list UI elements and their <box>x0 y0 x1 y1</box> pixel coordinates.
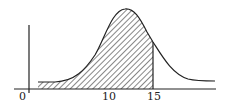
shaded-area <box>38 9 153 89</box>
origin-label: 0 <box>19 91 26 102</box>
distribution-diagram <box>0 0 234 107</box>
tick-label-10: 10 <box>102 91 116 102</box>
tick-label-15: 15 <box>147 91 161 102</box>
